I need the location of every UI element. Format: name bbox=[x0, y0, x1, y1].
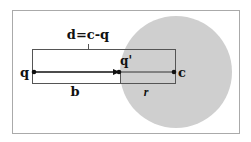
label-q: q bbox=[20, 65, 29, 80]
point-q bbox=[32, 70, 37, 75]
label-b: b bbox=[70, 84, 79, 99]
point-q-prime bbox=[117, 70, 122, 75]
label-r: r bbox=[144, 85, 149, 99]
ray-sphere-diagram: d=c-q q q' c b r bbox=[0, 0, 251, 142]
label-c: c bbox=[178, 65, 186, 80]
point-c bbox=[172, 70, 177, 75]
label-d-equation: d=c-q bbox=[67, 27, 109, 42]
label-q-prime: q' bbox=[120, 54, 132, 68]
